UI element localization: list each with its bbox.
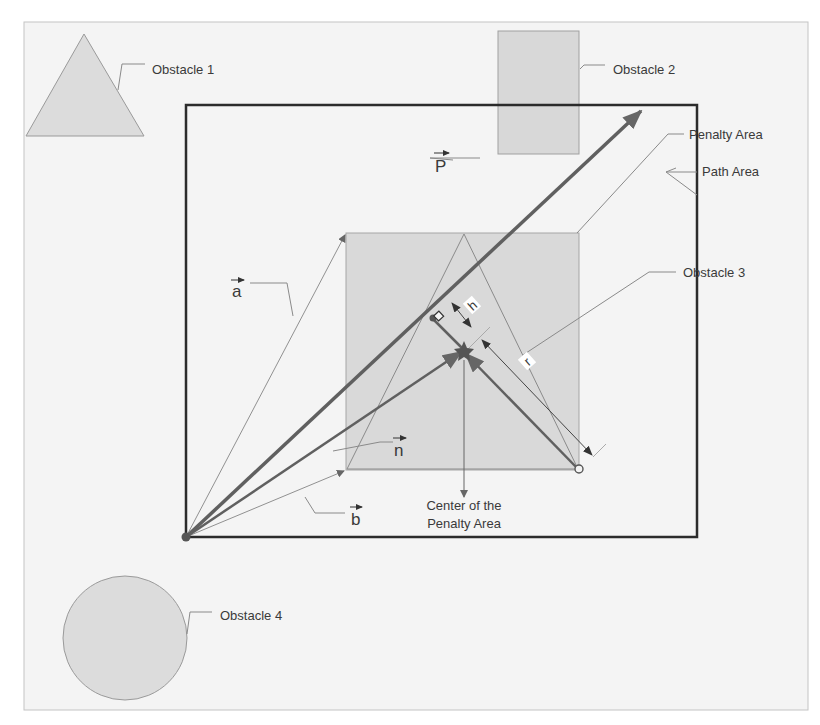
vector-n-symbol: n <box>394 441 403 460</box>
vector-b-symbol: b <box>351 510 360 529</box>
penalty-area-label: Penalty Area <box>689 127 763 142</box>
center-label-line1: Center of the <box>426 498 501 513</box>
center-label-line2: Penalty Area <box>427 516 501 531</box>
obstacle-2-label: Obstacle 2 <box>613 62 675 77</box>
vector-label-b: b <box>350 507 362 529</box>
obstacle-3-corner-point <box>575 465 583 473</box>
vector-a-symbol: a <box>232 282 242 301</box>
obstacle-1-label: Obstacle 1 <box>152 62 214 77</box>
obstacle-4-label: Obstacle 4 <box>220 608 282 623</box>
path-area-label: Path Area <box>702 164 760 179</box>
diagram-canvas: Obstacle 1 Obstacle 2 Obstacle 4 <box>0 0 820 725</box>
obstacle-3-label: Obstacle 3 <box>683 265 745 280</box>
origin-point <box>182 533 191 542</box>
vector-p-symbol: P <box>435 157 446 176</box>
